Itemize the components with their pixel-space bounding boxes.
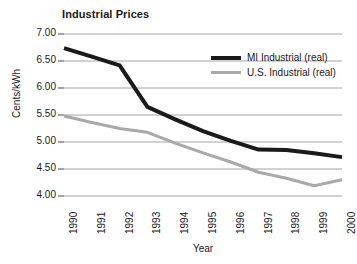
legend-item[interactable]: MI Industrial (real)	[211, 50, 336, 65]
x-tick-label: 1996	[235, 212, 246, 234]
x-tick-label: 1998	[290, 212, 301, 234]
legend-label: MI Industrial (real)	[247, 52, 328, 63]
y-tick-label: 6.50	[16, 54, 56, 65]
y-tick-label: 5.00	[16, 135, 56, 146]
legend-label: U.S. Industrial (real)	[247, 67, 336, 78]
y-tick-label: 7.00	[16, 27, 56, 38]
x-tick-label: 1991	[96, 212, 107, 234]
x-tick-label: 1992	[124, 212, 135, 234]
y-tick-label: 6.00	[16, 81, 56, 92]
y-tick-label: 5.50	[16, 108, 56, 119]
chart-legend: MI Industrial (real)U.S. Industrial (rea…	[211, 50, 336, 80]
x-tick-label: 1999	[318, 212, 329, 234]
y-tick-marks	[58, 34, 64, 196]
legend-item[interactable]: U.S. Industrial (real)	[211, 65, 336, 80]
legend-swatch-icon	[211, 71, 241, 74]
x-tick-label: 2000	[346, 212, 357, 234]
y-tick-label: 4.00	[16, 189, 56, 200]
x-tick-label: 1990	[68, 212, 79, 234]
x-tick-label: 1995	[207, 212, 218, 234]
x-tick-label: 1993	[151, 212, 162, 234]
y-tick-label: 4.50	[16, 162, 56, 173]
x-tick-label: 1997	[263, 212, 274, 234]
legend-swatch-icon	[211, 56, 241, 60]
x-tick-label: 1994	[179, 212, 190, 234]
